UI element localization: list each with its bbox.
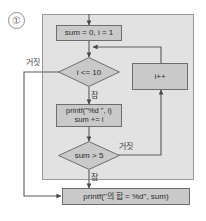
process-output: printf("의 합 = %d", sum) [62,188,190,205]
edge-label-break-false: 거짓 [119,140,133,151]
edge-label-break-true: 참 [91,171,98,182]
process-body: printf("%d ", i) sum += i [56,104,122,127]
decision-break-condition: sum > 5 [58,141,120,170]
decision-break-label: sum > 5 [58,141,120,170]
process-init: sum = 0, i = 1 [56,25,122,41]
flowchart-figure: ① sum = 0, i = 1 [0,0,206,221]
decision-loop-condition: i <= 10 [58,57,120,87]
process-increment: i++ [132,63,188,90]
decision-loop-label: i <= 10 [58,57,120,87]
edge-label-loop-false: 거짓 [26,56,40,67]
edge-label-loop-true: 참 [91,89,98,100]
figure-number-badge: ① [8,12,25,29]
